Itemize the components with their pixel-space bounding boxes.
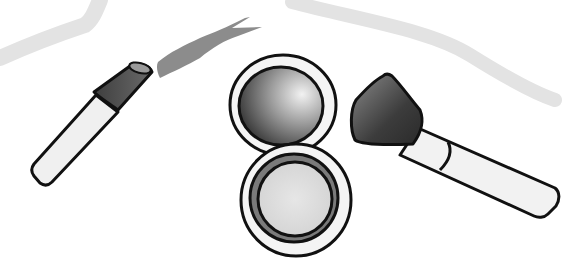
compact-powder-base <box>241 144 351 256</box>
compact-mirror-lid <box>230 55 336 155</box>
illustration-canvas <box>0 0 581 271</box>
makeup-illustration <box>0 0 581 271</box>
lipstick <box>32 60 152 185</box>
background-swoosh-left <box>0 0 100 58</box>
